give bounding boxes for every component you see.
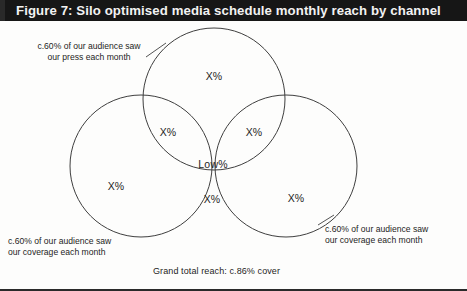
callout-coverage-left-line-1: c.60% of our audience saw <box>8 236 111 247</box>
region-label-left-right-overlap: X% <box>204 193 221 205</box>
region-label-right-only: X% <box>288 192 305 204</box>
callout-press-line-1: c.60% of our audience saw <box>14 41 164 52</box>
callout-coverage-left-line-2: our coverage each month <box>8 247 111 258</box>
region-label-top-right-overlap: X% <box>246 126 263 138</box>
venn-diagram: X% X% X% X% X% X% Low% c.60% of our audi… <box>0 21 467 291</box>
figure-title-bar: Figure 7: Silo optimised media schedule … <box>0 0 467 21</box>
callout-coverage-right-line-2: our coverage each month <box>325 235 428 246</box>
page-title: Figure 7: Silo optimised media schedule … <box>16 1 441 21</box>
callout-press: c.60% of our audience saw our press each… <box>14 41 164 63</box>
callout-coverage-right-line-1: c.60% of our audience saw <box>325 224 428 235</box>
region-label-top-left-overlap: X% <box>160 126 177 138</box>
callout-coverage-left: c.60% of our audience saw our coverage e… <box>8 236 111 258</box>
callout-coverage-right: c.60% of our audience saw our coverage e… <box>325 224 428 246</box>
grand-total-reach-label: Grand total reach: c.86% cover <box>153 266 280 276</box>
region-label-left-only: X% <box>108 180 125 192</box>
figure-container: Figure 7: Silo optimised media schedule … <box>0 0 467 291</box>
region-label-top-only: X% <box>206 70 223 82</box>
region-label-centre-overlap: Low% <box>198 158 227 170</box>
callout-press-line-2: our press each month <box>14 52 164 63</box>
